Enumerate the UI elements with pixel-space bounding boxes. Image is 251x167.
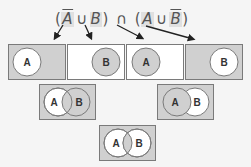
- arrow-to-box3: [117, 25, 142, 38]
- circle-label-b: B: [193, 97, 200, 108]
- circle-label-a: A: [23, 57, 30, 68]
- arrow-to-box1: [55, 25, 63, 38]
- circle-label-b: B: [135, 138, 142, 149]
- circle-label-b: B: [220, 57, 227, 68]
- arrow-to-box4: [146, 26, 193, 39]
- venn-diagram-canvas: A B A B A B A B: [0, 0, 251, 167]
- arrows: [55, 25, 193, 39]
- venn-box-a: A: [127, 45, 184, 80]
- circle-label-a: A: [171, 97, 178, 108]
- venn-box-not-a: A: [9, 45, 66, 80]
- circle-label-a: A: [50, 97, 57, 108]
- venn-box-not-a-union-b: A B: [40, 85, 96, 120]
- venn-box-a-union-not-b: A B: [158, 85, 214, 120]
- arrow-to-box2: [85, 25, 91, 38]
- venn-box-b: B: [68, 45, 125, 80]
- circle-label-b: B: [75, 97, 82, 108]
- circle-label-a: A: [112, 138, 119, 149]
- circle-label-a: A: [142, 57, 149, 68]
- venn-box-result: A B: [100, 126, 156, 161]
- venn-box-not-b: B: [186, 45, 243, 80]
- circle-label-b: B: [102, 57, 109, 68]
